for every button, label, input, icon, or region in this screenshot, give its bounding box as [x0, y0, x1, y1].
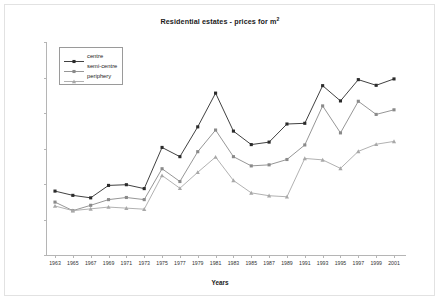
data-point [160, 173, 164, 177]
x-tick-mark [180, 255, 181, 258]
data-point [285, 158, 288, 161]
x-tick-mark [233, 255, 234, 258]
data-point [232, 155, 235, 158]
data-point [250, 164, 253, 167]
x-tick-mark [251, 255, 252, 258]
data-point [375, 84, 378, 87]
x-tick-label: 1973 [138, 260, 150, 266]
x-tick-label: 1993 [317, 260, 329, 266]
x-tick-mark [323, 255, 324, 258]
data-point [303, 143, 306, 146]
x-tick-mark [358, 255, 359, 258]
x-tick-mark [126, 255, 127, 258]
legend-key-square-icon [63, 62, 85, 71]
data-point [89, 204, 92, 207]
data-point [321, 104, 324, 107]
chart-title-superscript: 2 [277, 16, 280, 22]
x-tick-mark [144, 255, 145, 258]
legend-label: centre [87, 53, 103, 59]
x-tick-label: 1967 [85, 260, 97, 266]
x-tick-label: 1963 [49, 260, 61, 266]
y-tick-mark [44, 255, 47, 256]
data-point [71, 194, 74, 197]
legend-key-triangle-icon [63, 72, 85, 81]
x-tick-mark [305, 255, 306, 258]
x-tick-label: 1977 [174, 260, 186, 266]
x-tick-label: 1979 [192, 260, 204, 266]
x-tick-mark [394, 255, 395, 258]
legend: centresemi-centreperiphery [59, 47, 123, 85]
chart-title-text: Residential estates - prices for m [160, 17, 276, 26]
x-tick-label: 1989 [281, 260, 293, 266]
x-tick-mark [73, 255, 74, 258]
data-point [143, 198, 146, 201]
x-tick-mark [216, 255, 217, 258]
data-point [321, 84, 324, 87]
data-point [268, 141, 271, 144]
x-tick-mark [198, 255, 199, 258]
data-point [339, 131, 342, 134]
x-tick-label: 1969 [103, 260, 115, 266]
legend-item-centre[interactable]: centre [63, 51, 117, 61]
x-tick-label: 1999 [370, 260, 382, 266]
data-point [214, 128, 217, 131]
data-point [53, 190, 56, 193]
x-tick-mark [287, 255, 288, 258]
x-axis-label: Years [0, 279, 440, 286]
chart-title: Residential estates - prices for m2 [0, 16, 440, 26]
data-point [53, 201, 56, 204]
data-point [392, 108, 395, 111]
data-point [125, 196, 128, 199]
x-tick-label: 1987 [263, 260, 275, 266]
data-point [178, 155, 181, 158]
data-point [196, 125, 199, 128]
data-point [196, 150, 199, 153]
data-point [213, 155, 217, 159]
data-point [250, 143, 253, 146]
x-tick-mark [91, 255, 92, 258]
data-point [214, 92, 217, 95]
legend-label: semi-centre [87, 63, 117, 69]
x-tick-label: 1985 [245, 260, 257, 266]
series-line [55, 79, 394, 198]
series-centre [53, 77, 395, 199]
x-tick-mark [269, 255, 270, 258]
data-point [268, 163, 271, 166]
legend-label: periphery [87, 73, 111, 79]
screenshot-root: Residential estates - prices for m2 Valu… [0, 0, 440, 301]
x-tick-mark [109, 255, 110, 258]
x-tick-label: 2001 [388, 260, 400, 266]
x-tick-label: 1983 [228, 260, 240, 266]
legend-item-semi-centre[interactable]: semi-centre [63, 61, 117, 71]
x-tick-label: 1971 [121, 260, 133, 266]
x-tick-label: 1997 [353, 260, 365, 266]
data-point [285, 122, 288, 125]
x-tick-label: 1991 [299, 260, 311, 266]
data-point [232, 130, 235, 133]
data-point [107, 184, 110, 187]
data-point [375, 113, 378, 116]
data-point [53, 204, 57, 208]
data-point [357, 100, 360, 103]
x-tick-label: 1965 [67, 260, 79, 266]
x-tick-mark [376, 255, 377, 258]
data-point [125, 183, 128, 186]
x-tick-label: 1981 [210, 260, 222, 266]
legend-key-square-icon [63, 52, 85, 61]
x-tick-mark [55, 255, 56, 258]
legend-item-periphery[interactable]: periphery [63, 71, 117, 81]
data-point [107, 198, 110, 201]
x-tick-mark [162, 255, 163, 258]
series-periphery [53, 139, 396, 212]
data-point [339, 99, 342, 102]
data-point [161, 146, 164, 149]
series-line [55, 101, 394, 210]
data-point [143, 187, 146, 190]
series-semi-centre [53, 100, 395, 212]
x-tick-label: 1995 [335, 260, 347, 266]
data-point [89, 196, 92, 199]
x-tick-label: 1975 [156, 260, 168, 266]
data-point [161, 167, 164, 170]
data-point [303, 122, 306, 125]
data-point [392, 77, 395, 80]
